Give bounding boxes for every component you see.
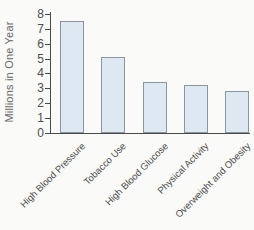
y-tick — [45, 73, 50, 74]
bar — [143, 82, 167, 133]
x-axis-category-label: High Blood Pressure — [18, 141, 87, 210]
y-tick — [45, 59, 50, 60]
x-axis-line — [48, 133, 250, 134]
y-tick-label: 1 — [18, 112, 44, 124]
y-tick — [45, 88, 50, 89]
y-axis-line — [50, 12, 51, 134]
y-tick-label: 2 — [18, 97, 44, 109]
bar — [184, 85, 208, 133]
y-tick — [45, 29, 50, 30]
bar — [225, 91, 249, 133]
y-tick — [45, 133, 50, 134]
y-tick-label: 5 — [18, 53, 44, 65]
y-tick — [45, 103, 50, 104]
bar — [60, 21, 84, 133]
y-tick-label: 7 — [18, 23, 44, 35]
y-tick — [45, 14, 50, 15]
y-tick-label: 0 — [18, 127, 44, 139]
bar-chart-figure: Millions in One Year 012345678High Blood… — [0, 0, 254, 230]
y-axis-title: Millions in One Year — [3, 21, 15, 122]
y-tick-label: 3 — [18, 82, 44, 94]
y-tick — [45, 44, 50, 45]
y-tick-label: 4 — [18, 67, 44, 79]
bar — [101, 57, 125, 133]
y-tick-label: 8 — [18, 8, 44, 20]
y-tick — [45, 118, 50, 119]
y-tick-label: 6 — [18, 38, 44, 50]
x-axis-category-label: Overweight and Obesity — [173, 141, 252, 220]
